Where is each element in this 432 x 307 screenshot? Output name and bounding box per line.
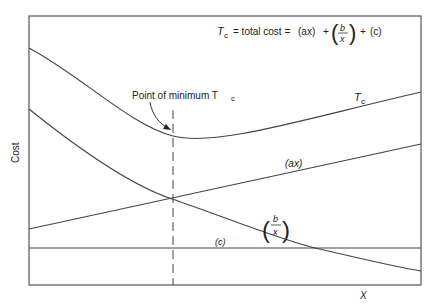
total-cost-curve (29, 48, 421, 139)
arrow-head-icon (163, 124, 171, 130)
annotation-arrow (150, 102, 168, 128)
bx-label-den: x (272, 227, 278, 237)
tc-label-sub: c (361, 97, 365, 106)
eq-term1: (ax) (298, 26, 315, 37)
eq-term2-den: x (339, 34, 345, 44)
ax-label: (ax) (285, 158, 302, 169)
eq-equals: = total cost = (233, 26, 290, 37)
bx-paren-right: ) (282, 216, 290, 243)
x-axis-label: X (359, 290, 367, 301)
bx-label-num: b (273, 214, 278, 224)
eq-paren-right: ) (349, 20, 356, 45)
c-label: (c) (215, 237, 226, 247)
eq-term3: (c) (370, 26, 382, 37)
eq-plus2: + (360, 26, 366, 37)
y-axis-label: Cost (10, 142, 21, 163)
eq-paren-left: ( (331, 20, 339, 45)
annotation-label-sub: c (231, 94, 235, 103)
bx-paren-left: ( (262, 216, 270, 243)
linear-cost-line (29, 144, 421, 229)
equation: T c = total cost = (ax) + ( b x ) + (c) (217, 20, 382, 45)
cost-diagram: T c = total cost = (ax) + ( b x ) + (c) … (0, 0, 432, 307)
eq-plus1: + (323, 26, 329, 37)
eq-term2-num: b (340, 23, 345, 33)
annotation-label: Point of minimum T (132, 90, 218, 101)
eq-lhs-sub: c (224, 31, 228, 40)
